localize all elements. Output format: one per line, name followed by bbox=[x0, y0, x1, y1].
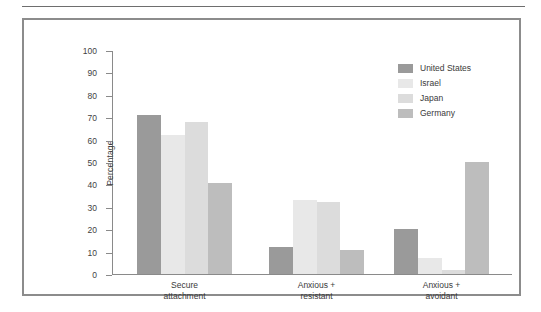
bar-germany-group-1 bbox=[208, 183, 232, 274]
bar-japan-group-2 bbox=[317, 202, 341, 274]
x-axis-label-1: Secureattachment bbox=[163, 280, 205, 303]
bar-united-states-group-1 bbox=[137, 115, 161, 274]
bar-united-states-group-2 bbox=[269, 247, 293, 274]
y-tick-label: 10 bbox=[88, 248, 97, 257]
y-tick-mark bbox=[106, 275, 112, 276]
legend-item-united-states: United States bbox=[398, 61, 518, 75]
bar-united-states-group-3 bbox=[394, 229, 418, 274]
bar-germany-group-3 bbox=[465, 162, 489, 274]
y-tick-mark bbox=[106, 96, 112, 97]
legend-item-israel: Israel bbox=[398, 76, 518, 90]
bar-israel-group-1 bbox=[161, 135, 185, 274]
legend-item-germany: Germany bbox=[398, 106, 518, 120]
y-tick-label: 100 bbox=[83, 47, 97, 56]
legend-label: Germany bbox=[420, 109, 455, 118]
y-tick-label: 70 bbox=[88, 114, 97, 123]
y-tick-label: 80 bbox=[88, 92, 97, 101]
x-axis-line bbox=[112, 274, 512, 275]
y-tick-mark bbox=[106, 73, 112, 74]
y-tick-mark bbox=[106, 185, 112, 186]
figure-container: Percentage 0102030405060708090100 Secure… bbox=[0, 0, 541, 312]
bar-japan-group-1 bbox=[185, 122, 209, 274]
x-axis-label-line: resistant bbox=[298, 291, 336, 302]
bar-group-2: Anxious +resistant bbox=[269, 51, 364, 274]
y-tick-mark bbox=[106, 230, 112, 231]
bar-israel-group-3 bbox=[418, 258, 442, 274]
x-axis-label-line: Anxious + bbox=[423, 280, 461, 291]
y-tick-label: 20 bbox=[88, 226, 97, 235]
y-tick-mark bbox=[106, 208, 112, 209]
bar-group-1: Secureattachment bbox=[137, 51, 232, 274]
legend-label: Israel bbox=[420, 79, 441, 88]
y-tick-mark bbox=[106, 141, 112, 142]
top-rule-divider bbox=[22, 6, 525, 7]
y-tick-mark bbox=[106, 253, 112, 254]
legend-label: United States bbox=[420, 64, 471, 73]
x-axis-label-line: attachment bbox=[163, 291, 205, 302]
y-tick-label: 90 bbox=[88, 69, 97, 78]
x-axis-label-3: Anxious +avoidant bbox=[423, 280, 461, 303]
y-tick-label: 60 bbox=[88, 136, 97, 145]
legend-label: Japan bbox=[420, 94, 443, 103]
x-axis-label-line: Anxious + bbox=[298, 280, 336, 291]
bar-japan-group-3 bbox=[442, 270, 466, 274]
bar-israel-group-2 bbox=[293, 200, 317, 274]
x-axis-label-2: Anxious +resistant bbox=[298, 280, 336, 303]
legend-item-japan: Japan bbox=[398, 91, 518, 105]
legend-swatch-icon bbox=[398, 79, 413, 88]
y-tick-label: 50 bbox=[88, 159, 97, 168]
chart-legend: United StatesIsraelJapanGermany bbox=[398, 61, 518, 121]
y-tick-mark bbox=[106, 163, 112, 164]
y-tick-label: 40 bbox=[88, 181, 97, 190]
y-tick-label: 30 bbox=[88, 204, 97, 213]
y-tick-mark bbox=[106, 118, 112, 119]
legend-swatch-icon bbox=[398, 109, 413, 118]
x-axis-label-line: Secure bbox=[163, 280, 205, 291]
bar-germany-group-2 bbox=[340, 250, 364, 274]
figure-frame: Percentage 0102030405060708090100 Secure… bbox=[22, 18, 521, 296]
legend-swatch-icon bbox=[398, 64, 413, 73]
legend-swatch-icon bbox=[398, 94, 413, 103]
x-axis-label-line: avoidant bbox=[423, 291, 461, 302]
y-tick-label: 0 bbox=[92, 271, 97, 280]
y-tick-mark bbox=[106, 51, 112, 52]
